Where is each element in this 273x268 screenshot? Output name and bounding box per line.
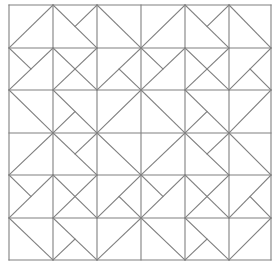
diagonal-line xyxy=(9,218,53,260)
diagonal-line xyxy=(9,175,31,197)
diagonal-line xyxy=(229,5,271,48)
diagonal-line xyxy=(97,133,141,175)
diagonal-line xyxy=(53,239,75,260)
diagonal-line xyxy=(207,5,229,27)
diagram-svg xyxy=(0,0,273,268)
diagonal-line xyxy=(141,5,185,48)
diagonal-line xyxy=(75,5,97,27)
diagonal-line xyxy=(53,112,75,134)
diagonal-line xyxy=(141,133,185,175)
diagonal-line xyxy=(229,90,271,133)
diagonal-line xyxy=(185,239,207,260)
grid-lines xyxy=(9,5,271,260)
diagonal-line xyxy=(9,5,53,48)
diagonal-line xyxy=(250,69,271,90)
diagonal-line xyxy=(97,5,141,48)
diagonal-line xyxy=(9,133,53,175)
tiling-diagram xyxy=(0,0,273,268)
diagonal-line xyxy=(141,218,185,260)
diagonal-line xyxy=(185,112,207,134)
diagonal-line xyxy=(75,133,97,154)
diagonal-line xyxy=(141,48,163,69)
diagonal-line xyxy=(97,218,141,260)
diagonal-line xyxy=(9,90,53,133)
diagonal-line xyxy=(229,218,271,260)
diagonal-line xyxy=(141,90,185,133)
diagonal-line xyxy=(119,69,141,90)
diagonal-line xyxy=(97,90,141,133)
diagonal-line xyxy=(9,48,31,69)
diagonal-line xyxy=(229,133,271,175)
diagonal-line xyxy=(141,175,163,197)
diagonal-line xyxy=(250,197,271,219)
diagonal-line xyxy=(119,197,141,219)
diagonal-line xyxy=(207,133,229,154)
